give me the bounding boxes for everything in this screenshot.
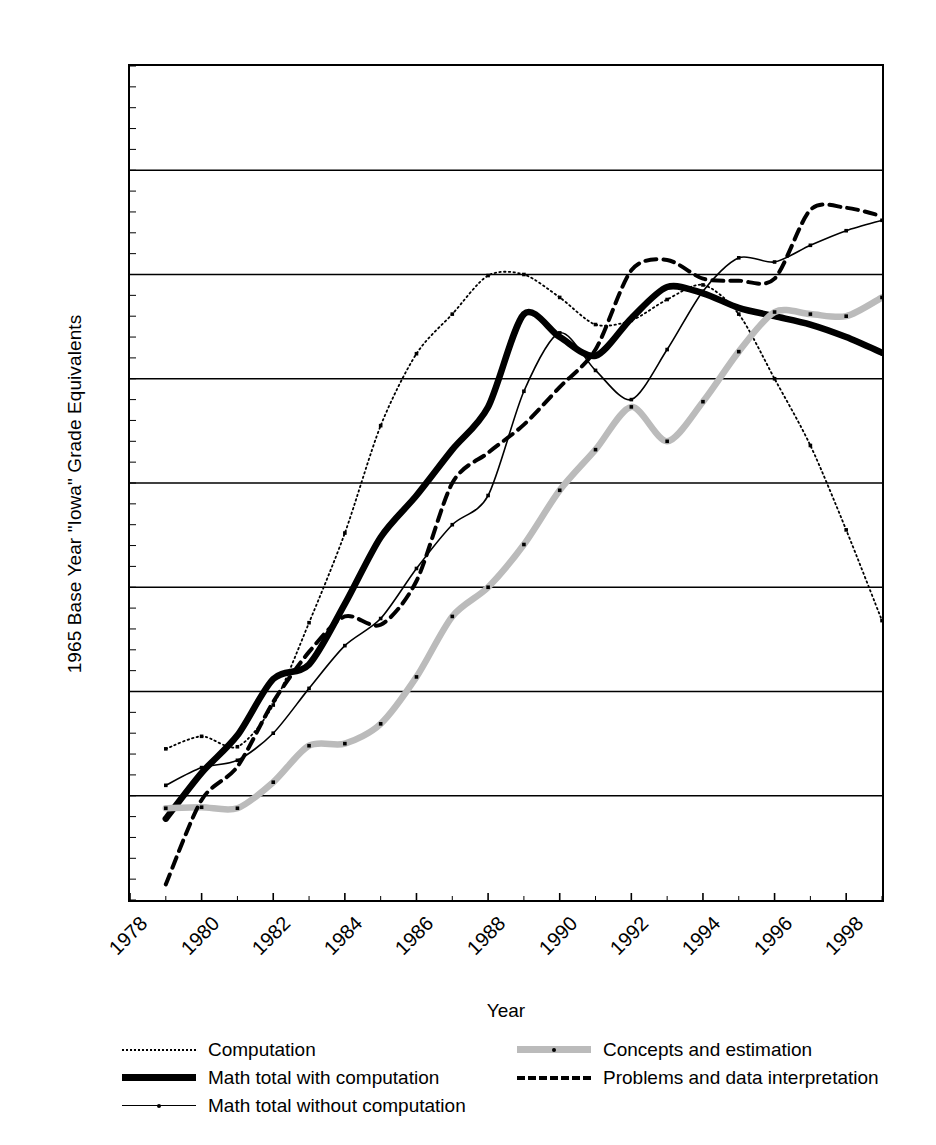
data-point-marker [880,296,882,300]
legend-marker-sample [552,1048,556,1052]
legend-column-right: Concepts and estimationProblems and data… [515,1036,920,1092]
legend-column-left: ComputationMath total with computationMa… [120,1036,520,1120]
data-point-marker [236,806,240,810]
data-point-marker [880,218,882,222]
data-point-marker [343,644,347,648]
data-point-marker [307,687,311,691]
data-point-marker [200,766,204,770]
data-point-marker [522,273,526,277]
legend-swatch-dashed [515,1068,593,1088]
legend-item: Math total without computation [120,1092,520,1120]
data-point-marker [486,274,490,278]
data-point-marker [630,405,634,409]
data-point-marker [379,424,383,428]
x-tick-label: 1986 [391,912,439,960]
legend-label: Math total with computation [208,1067,439,1089]
data-point-marker [271,780,275,784]
series-math-total-with-computation [166,286,882,819]
x-tick-label: 1982 [248,912,296,960]
data-point-marker [558,296,562,300]
data-point-marker [343,742,347,746]
data-point-marker [164,747,168,751]
x-tick-label: 1988 [463,912,511,960]
data-point-marker [164,784,168,788]
legend-item: Math total with computation [120,1064,520,1092]
data-point-marker [522,389,526,393]
data-point-marker [415,567,419,571]
data-point-marker [594,448,598,452]
data-point-marker [773,310,777,314]
data-point-marker [844,528,848,532]
data-point-marker [594,369,598,373]
data-point-marker [379,617,383,621]
data-point-marker [880,619,882,623]
legend-item: Concepts and estimation [515,1036,920,1064]
legend-item: Problems and data interpretation [515,1064,920,1092]
legend-swatch-thin-solid-marker [120,1096,198,1116]
data-point-marker [737,350,741,354]
data-point-marker [200,735,204,739]
data-point-marker [486,585,490,589]
data-point-marker [809,444,813,448]
legend-item: Computation [120,1036,520,1064]
data-point-marker [701,283,705,287]
x-tick-label: 1994 [677,912,725,960]
data-point-marker [236,745,240,749]
legend-line-sample [517,1076,591,1080]
data-point-marker [271,731,275,735]
data-point-marker [773,377,777,381]
data-point-marker [737,312,741,316]
data-point-marker [307,621,311,625]
legend-line-sample [122,1049,196,1051]
legend-label: Concepts and estimation [603,1039,812,1061]
legend-marker-sample [157,1104,161,1108]
chart-legend: ComputationMath total with computationMa… [120,1036,920,1136]
data-point-marker [379,722,383,726]
x-tick-label: 1990 [534,912,582,960]
plot-area [128,64,884,902]
data-point-marker [450,312,454,316]
chart-figure: 1965 Base Year "Iowa" Grade Equivalents … [0,0,936,1145]
data-point-marker [307,744,311,748]
data-point-marker [737,256,741,260]
x-tick-label: 1992 [606,912,654,960]
legend-label: Problems and data interpretation [603,1067,879,1089]
x-tick-label: 1998 [821,912,869,960]
legend-swatch-thick-gray-marker [515,1040,593,1060]
legend-label: Math total without computation [208,1095,466,1117]
data-point-marker [630,398,634,402]
y-axis-title: 1965 Base Year "Iowa" Grade Equivalents [64,184,86,804]
series-line [166,286,882,819]
data-point-marker [558,331,562,335]
legend-line-sample [122,1074,196,1081]
data-point-marker [343,531,347,535]
data-point-marker [200,805,204,809]
data-point-marker [665,298,669,302]
data-point-marker [665,348,669,352]
legend-label: Computation [208,1039,316,1061]
data-point-marker [844,229,848,233]
data-point-marker [415,352,419,356]
legend-swatch-thick-solid [120,1068,198,1088]
data-point-marker [665,440,669,444]
data-point-marker [450,523,454,527]
data-point-marker [486,494,490,498]
x-axis-title: Year [128,1000,884,1022]
data-point-marker [415,675,419,679]
data-point-marker [164,806,168,810]
data-point-marker [450,615,454,619]
data-point-marker [558,488,562,492]
plot-canvas [130,66,882,900]
data-point-marker [809,244,813,248]
x-tick-label: 1996 [749,912,797,960]
series-math-total-without-computation [164,218,882,787]
data-point-marker [701,289,705,293]
x-tick-label: 1978 [105,912,153,960]
x-tick-label: 1980 [176,912,224,960]
data-point-marker [844,314,848,318]
legend-swatch-dotted [120,1040,198,1060]
data-point-marker [773,260,777,264]
x-tick-label: 1984 [319,912,367,960]
data-point-marker [594,323,598,327]
data-point-marker [701,400,705,404]
